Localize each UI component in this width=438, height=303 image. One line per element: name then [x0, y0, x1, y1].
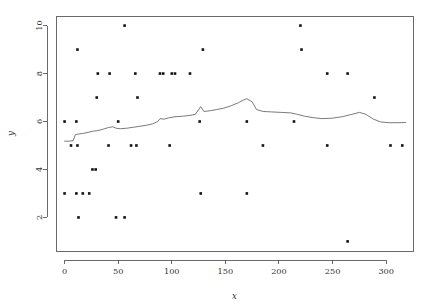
x-tick-label: 150: [218, 266, 234, 276]
data-point: [326, 72, 329, 75]
x-tick-label: 100: [164, 266, 180, 276]
data-point: [135, 144, 138, 147]
plot-frame: [56, 16, 413, 251]
data-point: [134, 72, 137, 75]
data-point: [401, 144, 404, 147]
data-point: [246, 192, 249, 195]
data-point: [123, 216, 126, 219]
data-point: [77, 216, 80, 219]
y-tick-label: 6: [34, 119, 44, 124]
data-point: [95, 96, 98, 99]
y-axis-title: y: [6, 131, 16, 137]
data-point: [189, 72, 192, 75]
data-point: [136, 96, 139, 99]
data-point: [123, 24, 126, 27]
data-point: [88, 192, 91, 195]
data-point: [63, 192, 66, 195]
data-point: [373, 96, 376, 99]
x-tick-label: 50: [113, 266, 123, 276]
data-point: [63, 120, 66, 123]
data-point: [346, 240, 349, 243]
data-point: [299, 24, 302, 27]
y-tick-label: 10: [34, 20, 44, 30]
data-point: [108, 72, 111, 75]
data-point: [389, 144, 392, 147]
data-point: [70, 144, 73, 147]
data-point: [293, 120, 296, 123]
data-point: [174, 72, 177, 75]
y-tick-label: 8: [34, 71, 44, 76]
data-point: [246, 120, 249, 123]
chart-canvas: 050100150200250300x246810y: [0, 0, 438, 303]
data-point: [162, 72, 165, 75]
data-point: [75, 192, 78, 195]
data-point: [97, 72, 100, 75]
x-tick-label: 300: [378, 266, 394, 276]
data-point: [94, 168, 97, 171]
data-point: [262, 144, 265, 147]
scatter-plot-figure: 050100150200250300x246810y: [0, 0, 438, 303]
data-point: [300, 48, 303, 51]
x-tick-label: 250: [325, 266, 341, 276]
x-tick-label: 0: [62, 266, 67, 276]
data-point: [76, 144, 79, 147]
data-point: [326, 144, 329, 147]
data-point: [76, 48, 79, 51]
trend-line-smoothed-trend: [65, 99, 406, 141]
data-point: [346, 72, 349, 75]
data-point: [170, 72, 173, 75]
x-tick-label: 200: [271, 266, 287, 276]
data-point: [117, 120, 120, 123]
data-point: [91, 168, 94, 171]
data-point: [115, 216, 118, 219]
data-point: [198, 120, 201, 123]
data-point: [168, 144, 171, 147]
data-point: [202, 48, 205, 51]
data-point: [75, 120, 78, 123]
y-tick-label: 4: [34, 167, 44, 172]
y-tick-label: 2: [34, 215, 44, 220]
data-point: [107, 144, 110, 147]
data-point: [199, 192, 202, 195]
data-point: [159, 72, 162, 75]
data-point: [82, 192, 85, 195]
data-point: [130, 144, 133, 147]
x-axis-title: x: [232, 291, 237, 301]
